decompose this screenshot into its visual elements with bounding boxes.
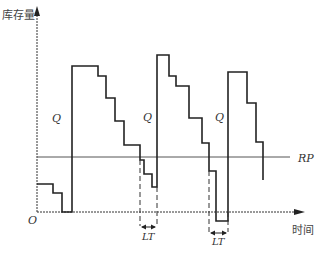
lead-time-label-2: LT bbox=[212, 236, 225, 247]
lead-time-arrow-icon-2 bbox=[210, 231, 227, 236]
diagram-svg bbox=[0, 0, 323, 254]
inventory-step-line bbox=[37, 55, 263, 221]
reorder-point-label: RP bbox=[298, 152, 314, 165]
inventory-diagram: 库存量 时间 O RP Q Q Q LT LT bbox=[0, 0, 323, 254]
lead-time-arrow-icon-1 bbox=[141, 225, 156, 230]
order-quantity-label-1: Q bbox=[52, 112, 61, 125]
lead-time-label-1: LT bbox=[142, 231, 155, 242]
x-axis-arrow-icon bbox=[294, 209, 305, 215]
order-quantity-label-2: Q bbox=[143, 111, 152, 124]
x-axis-label: 时间 bbox=[292, 221, 314, 237]
origin-label: O bbox=[28, 214, 37, 227]
y-axis-label: 库存量 bbox=[2, 6, 35, 22]
order-quantity-label-3: Q bbox=[215, 111, 224, 124]
